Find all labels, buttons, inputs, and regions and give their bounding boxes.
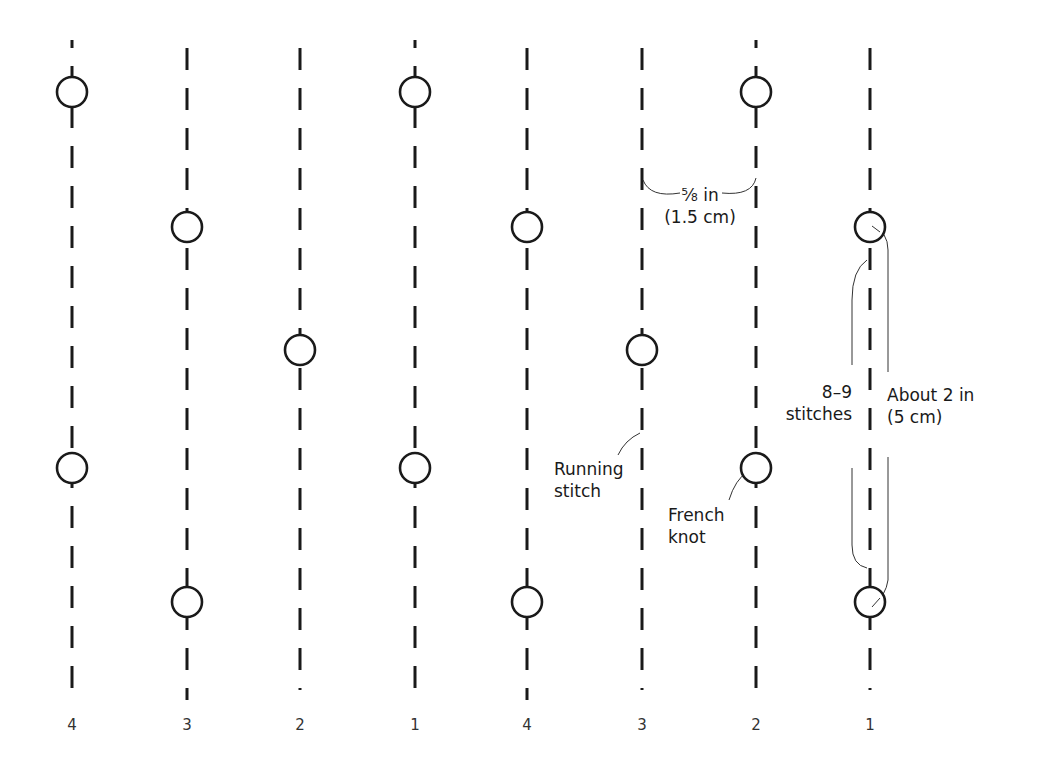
stitch-count-line2: stitches — [760, 403, 852, 425]
french-knot-icon — [57, 77, 87, 107]
french-knot-icon — [741, 77, 771, 107]
french-knot-icon — [855, 212, 885, 242]
column-number: 1 — [400, 716, 430, 734]
running-stitch-line2: stitch — [554, 480, 624, 502]
french-knot-icon — [627, 335, 657, 365]
stitch-count-label: 8–9 stitches — [760, 381, 852, 425]
length-label: About 2 in (5 cm) — [887, 384, 974, 428]
french-knot-icon — [741, 453, 771, 483]
french-knot-icon — [172, 212, 202, 242]
length-bracket-top — [872, 225, 888, 372]
column-number: 2 — [285, 716, 315, 734]
french-knot-line2: knot — [668, 526, 725, 548]
french-knot-icon — [512, 587, 542, 617]
stitch-pattern-diagram — [0, 0, 1038, 776]
french-knot-icon — [512, 212, 542, 242]
running-stitch-label: Running stitch — [554, 458, 624, 502]
length-line2: (5 cm) — [887, 406, 974, 428]
column-number: 3 — [627, 716, 657, 734]
french-knot-line1: French — [668, 504, 725, 526]
spacing-label-line1: ⅝ in — [640, 184, 760, 206]
running-stitch-leader — [618, 433, 640, 455]
stitch-count-bracket-bottom — [852, 468, 867, 568]
french-knot-icon — [57, 453, 87, 483]
length-bracket-bottom — [873, 457, 888, 606]
column-number: 3 — [172, 716, 202, 734]
french-knot-label: French knot — [668, 504, 725, 548]
running-stitch-line1: Running — [554, 458, 624, 480]
stitch-count-line1: 8–9 — [760, 381, 852, 403]
column-number: 2 — [741, 716, 771, 734]
french-knots — [57, 77, 885, 617]
length-line1: About 2 in — [887, 384, 974, 406]
spacing-label: ⅝ in (1.5 cm) — [640, 184, 760, 228]
french-knot-icon — [855, 587, 885, 617]
french-knot-icon — [172, 587, 202, 617]
french-knot-icon — [285, 335, 315, 365]
column-number: 1 — [855, 716, 885, 734]
french-knot-icon — [400, 453, 430, 483]
column-number: 4 — [512, 716, 542, 734]
spacing-label-line2: (1.5 cm) — [640, 206, 760, 228]
french-knot-icon — [400, 77, 430, 107]
stitch-count-bracket-top — [852, 260, 867, 365]
column-number: 4 — [57, 716, 87, 734]
